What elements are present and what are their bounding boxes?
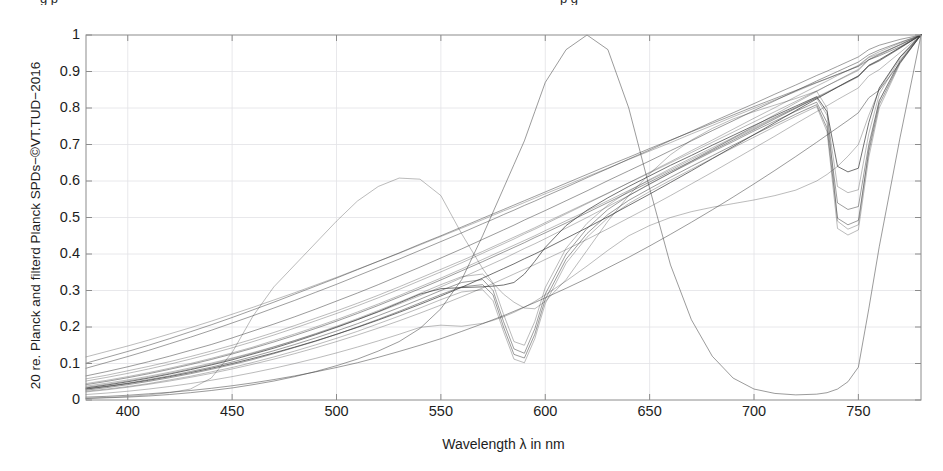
spd-curve bbox=[86, 35, 921, 389]
spd-curve bbox=[86, 35, 921, 386]
x-tick-label: 750 bbox=[828, 403, 888, 419]
spd-curve bbox=[86, 35, 921, 368]
spd-curve bbox=[86, 35, 921, 389]
x-tick-label: 600 bbox=[515, 403, 575, 419]
spd-curve bbox=[86, 35, 921, 381]
spd-curve bbox=[86, 35, 921, 390]
x-tick-label: 500 bbox=[307, 403, 367, 419]
spd-curve bbox=[86, 35, 921, 399]
spd-curve bbox=[86, 35, 921, 388]
gridlines bbox=[86, 35, 921, 400]
spd-curve bbox=[86, 35, 921, 357]
x-tick-label: 400 bbox=[98, 403, 158, 419]
spd-curve bbox=[86, 35, 921, 391]
x-axis-label: Wavelength λ in nm bbox=[86, 436, 921, 452]
x-tick-label: 700 bbox=[724, 403, 784, 419]
curve-group bbox=[86, 35, 921, 399]
spd-curve bbox=[86, 35, 921, 398]
x-tick-label: 650 bbox=[620, 403, 680, 419]
x-tick-label: 450 bbox=[202, 403, 262, 419]
spd-curve bbox=[86, 35, 921, 392]
plot-canvas bbox=[0, 0, 943, 471]
figure-root: g p p g 20 re. Planck and filterd Planck… bbox=[0, 0, 943, 471]
spd-curve bbox=[86, 35, 921, 397]
x-tick-label: 550 bbox=[411, 403, 471, 419]
